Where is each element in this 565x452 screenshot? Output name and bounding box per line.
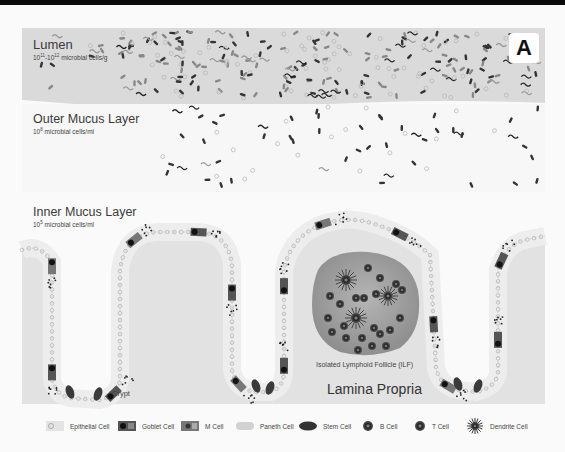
rod-bacterium	[177, 76, 183, 79]
paneth-cell-icon	[236, 421, 254, 431]
t-cell-icon	[414, 420, 426, 432]
outer-mucus-subtitle: 108 microbial cells/ml	[33, 127, 94, 135]
epithelial-cell-icon	[46, 421, 64, 431]
mucus-granule	[494, 319, 496, 321]
dendrite-cell-icon	[466, 417, 484, 435]
lymphocyte	[396, 314, 404, 322]
lamina-propria-label: Lamina Propria	[327, 381, 422, 397]
rod-bacterium	[317, 113, 320, 119]
rod-bacterium	[181, 60, 184, 66]
lymphocyte	[360, 294, 368, 302]
lymphocyte	[372, 290, 380, 298]
rod-bacterium	[201, 65, 207, 68]
mucus-granule	[287, 264, 289, 266]
outer-mucus-title: Outer Mucus Layer	[33, 112, 139, 126]
inner-mucus-subtitle: 105 microbial cells/ml	[33, 220, 94, 228]
lymphocyte	[352, 294, 360, 302]
rod-bacterium	[197, 85, 200, 91]
lymphocyte	[324, 314, 332, 322]
legend-item-b-cell: B Cell	[362, 418, 397, 434]
lymphocyte	[336, 300, 344, 308]
lymphocyte	[376, 274, 384, 282]
rod-bacterium	[163, 62, 169, 65]
mucus-granule	[282, 262, 284, 264]
rod-bacterium	[176, 80, 182, 83]
lymphocyte	[342, 334, 350, 342]
rod-bacterium	[169, 32, 175, 35]
mucus-granule	[501, 323, 503, 325]
rod-bacterium	[181, 40, 184, 46]
legend-label: M Cell	[205, 423, 223, 430]
legend-item-goblet: Goblet Cell	[118, 418, 174, 434]
rod-bacterium	[401, 39, 404, 45]
mucus-granule	[284, 342, 286, 344]
ilf-label: Isolated Lymphoid Follicle (ILF)	[316, 361, 413, 368]
lymphocyte	[326, 292, 334, 300]
lymphocyte	[382, 342, 390, 350]
mucus-granule	[48, 387, 50, 389]
legend-label: Stem Cell	[323, 423, 351, 430]
mucus-granule	[280, 272, 282, 274]
rod-bacterium	[472, 92, 474, 98]
legend-item-stem: Stem Cell	[299, 418, 351, 434]
legend-label: Goblet Cell	[142, 423, 174, 430]
mucus-granule	[497, 317, 499, 319]
legend-item-m-cell: M Cell	[181, 418, 223, 434]
lymphocyte	[358, 334, 366, 342]
mucus-granule	[232, 310, 234, 312]
mucus-granule	[54, 393, 56, 395]
mucus-granule	[228, 304, 230, 306]
mucus-granule	[496, 319, 498, 321]
lymphocyte	[340, 322, 348, 330]
rod-bacterium	[133, 80, 135, 86]
lumen-title: Lumen	[33, 37, 73, 52]
stem-cell-icon	[299, 421, 317, 431]
rod-bacterium	[435, 60, 441, 63]
rod-bacterium	[187, 31, 193, 33]
dendrite-cell	[378, 286, 398, 306]
legend-item-epithelial: Epithelial Cell	[46, 418, 109, 434]
goblet-cell-icon	[118, 421, 136, 431]
mucus-granule	[282, 344, 284, 346]
mucus-granule	[236, 308, 238, 310]
legend-label: Paneth Cell	[260, 423, 294, 430]
rod-bacterium	[318, 128, 321, 134]
mucus-granule	[50, 284, 52, 286]
mucus-granule	[286, 270, 288, 272]
rod-bacterium	[395, 93, 398, 99]
rod-bacterium	[240, 70, 243, 76]
mucus-granule	[502, 316, 504, 318]
inner-mucus-title: Inner Mucus Layer	[33, 205, 137, 219]
mucus-granule	[280, 342, 282, 344]
lymphocyte	[368, 342, 376, 350]
rod-bacterium	[210, 41, 216, 44]
legend-item-dendrite: Dendrite Cell	[466, 418, 528, 434]
mucus-granule	[280, 268, 282, 270]
legend-label: B Cell	[380, 423, 397, 430]
mucus-granule	[50, 388, 52, 390]
lumen-subtitle: 1011-1012 microbial cells/g	[33, 53, 107, 61]
dendrite-cell	[345, 307, 367, 329]
mucus-granule	[47, 282, 49, 284]
mucus-granule	[281, 265, 283, 267]
mucus-granule	[229, 314, 231, 316]
rod-bacterium	[204, 178, 210, 181]
lymphocyte	[386, 326, 394, 334]
b-cell-icon	[362, 420, 374, 432]
lymphocyte	[328, 328, 336, 336]
legend-label: T Cell	[432, 423, 449, 430]
lymphocyte	[354, 346, 362, 354]
rod-bacterium	[379, 182, 385, 185]
legend-item-paneth: Paneth Cell	[236, 418, 294, 434]
legend-label: Dendrite Cell	[490, 423, 528, 430]
mucus-granule	[230, 310, 232, 312]
mucus-granule	[226, 306, 228, 308]
rod-bacterium	[119, 37, 125, 40]
m-cell-icon	[181, 421, 199, 431]
mucus-granule	[56, 389, 58, 391]
mucus-granule	[48, 393, 50, 395]
mucus-granule	[54, 279, 56, 281]
rod-bacterium	[452, 127, 455, 133]
mucus-granule	[56, 387, 58, 389]
mucus-granule	[49, 287, 51, 289]
